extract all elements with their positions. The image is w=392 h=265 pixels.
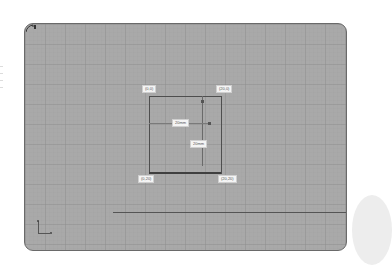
ground-line bbox=[113, 212, 346, 213]
origin-axis-icon bbox=[50, 232, 52, 234]
origin-axis-y bbox=[38, 221, 39, 233]
corner-label-bottom-left: (0,20) bbox=[138, 175, 154, 183]
corner-label-bottom-right: (20,20) bbox=[218, 175, 237, 183]
origin-axis-x bbox=[38, 233, 50, 234]
dimension-arrow-icon bbox=[208, 122, 211, 125]
sketch-rectangle[interactable] bbox=[149, 96, 222, 174]
dimension-label-width[interactable]: 20mm bbox=[172, 119, 189, 127]
corner-label-top-right: (20,0) bbox=[216, 85, 232, 93]
dimension-arrow-icon bbox=[201, 100, 204, 103]
sketch-canvas[interactable]: (0,0) (20,0) (0,20) (20,20) 20mm 20mm bbox=[24, 23, 347, 251]
vertical-dimension-line bbox=[202, 96, 203, 166]
side-ruler-marks bbox=[0, 60, 4, 110]
sketch-tool-icon[interactable] bbox=[26, 24, 38, 32]
corner-label-top-left: (0,0) bbox=[142, 85, 156, 93]
overlay-shadow bbox=[352, 195, 392, 265]
origin-axis-icon bbox=[37, 220, 39, 222]
dimension-label-height[interactable]: 20mm bbox=[190, 140, 207, 148]
rectangle-bottom-edge[interactable] bbox=[149, 172, 221, 174]
